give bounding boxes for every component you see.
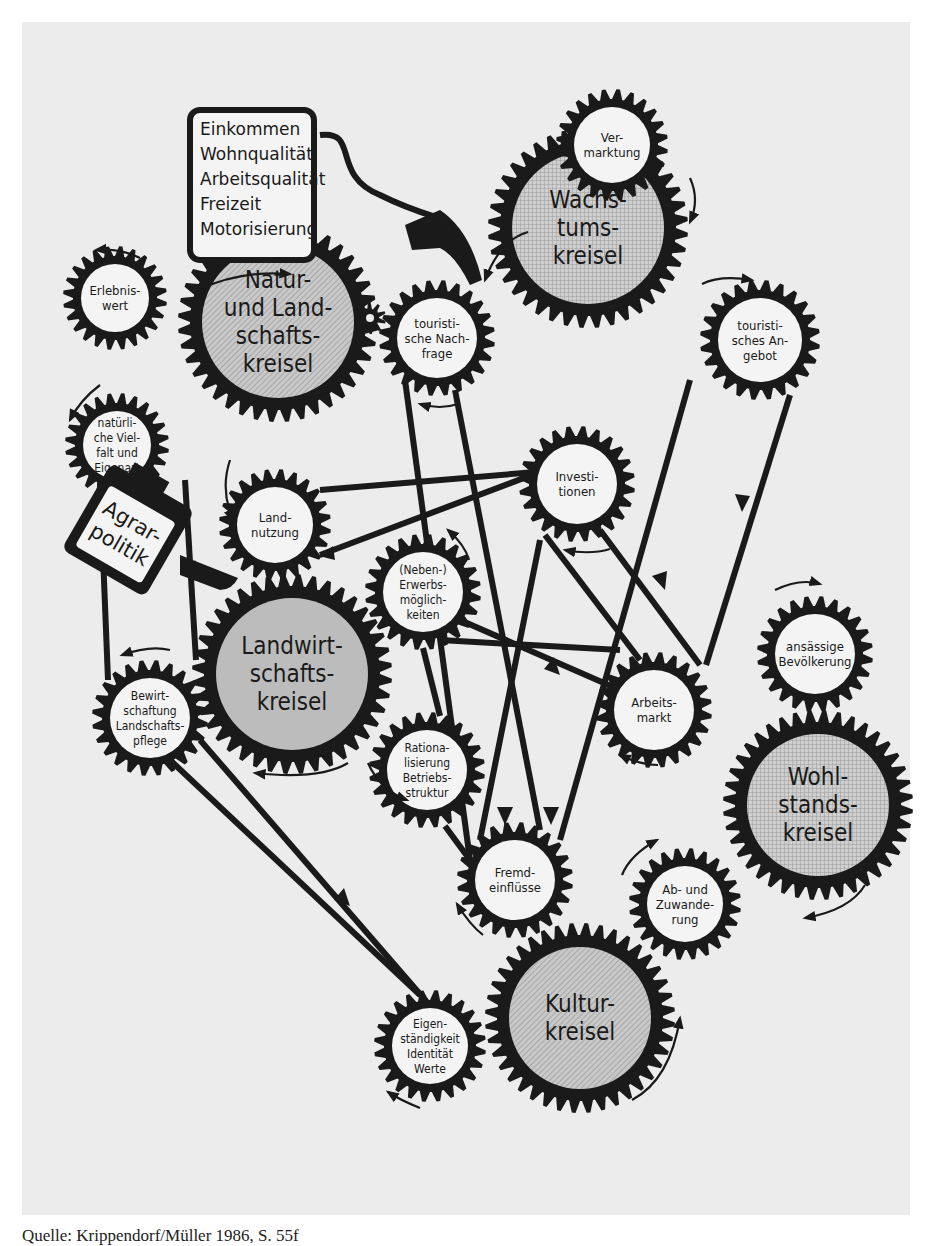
gear-label: tionen [558,484,595,499]
gear-label: Landschafts- [116,719,185,733]
info-box-line-4: Freizeit [200,194,261,214]
gear-fremdeinfluesse: Fremd-einflüsse [457,822,573,938]
gear-label: schafts- [236,322,321,350]
gear-label: Betriebs- [403,771,452,785]
gear-label: tums- [557,214,619,242]
gear-label: struktur [406,786,449,800]
gear-label: Eigen- [413,1017,447,1031]
gear-landnutzung: Land-nutzung [219,469,331,581]
gear-label: kreisel [545,1018,616,1046]
info-box-line-2: Wohnqualität [200,144,313,164]
gear-arbeitsmarkt: Arbeits-markt [596,652,712,768]
gear-label: einflüsse [489,880,541,895]
info-box: Einkommen Wohnqualität Arbeitsqualität F… [190,110,326,260]
gear-label: Kultur- [545,990,615,1018]
gear-landwirtschaft: Landwirt-schafts-kreisel [192,574,392,774]
gear-kultur: Kultur-kreisel [485,923,675,1113]
gear-angebot: touristi-sches An-gebot [700,280,820,400]
gear-label: und Land- [224,294,332,322]
gear-label: Zuwande- [656,897,714,912]
gear-label: marktung [584,145,641,160]
gear-label: Investi- [555,469,598,484]
gear-nebenerwerb: (Neben-)Erwerbs-möglich-keiten [365,534,481,650]
gear-label: markt [637,710,672,725]
gear-label: Ver- [601,130,623,145]
gear-label: schafts- [250,660,335,688]
gear-bevoelkerung: ansässigeBevölkerung [757,596,873,712]
gear-label: Landwirt- [241,632,342,660]
source-caption: Quelle: Krippendorf/Müller 1986, S. 55f [22,1226,299,1246]
gear-erlebniswert: Erlebnis-wert [63,246,167,350]
gear-label: Bewirt- [131,689,170,703]
gear-label: Land- [259,510,292,525]
gear-eigenstaendigkeit: Eigen-ständigkeitIdentitätWerte [374,990,486,1102]
gear-abzuwanderung: Ab- undZuwande-rung [629,848,741,960]
gear-label: Rationa- [404,741,449,755]
info-box-line-3: Arbeitsqualität [200,169,326,189]
gear-label: sches An- [732,333,789,348]
gear-label: ständigkeit [400,1032,460,1046]
gear-label: pflege [133,734,167,748]
gear-label: Fremd- [495,865,536,880]
gear-nachfrage: touristi-sche Nach-frage [379,280,495,396]
gear-label: kreisel [783,819,854,847]
gear-label: schaftung [123,704,176,718]
gear-label: stands- [778,791,857,819]
gear-label: touristi- [737,318,782,333]
gear-label: gebot [743,348,777,363]
gear-label: touristi- [414,316,459,331]
gear-wohlstand: Wohl-stands-kreisel [723,710,913,900]
gear-label: nutzung [251,525,299,540]
gear-label: kreisel [553,242,624,270]
gear-investitionen: Investi-tionen [519,426,635,542]
fuel-nozzle-icon [405,210,482,285]
fuel-hose [320,135,445,220]
gear-label: falt und [96,446,138,460]
gear-label: ansässige [786,639,844,654]
gear-label: Identität [407,1047,453,1061]
gear-label: Erlebnis- [89,283,140,298]
gear-label: wert [102,298,129,313]
gear-label: Natur- [245,266,312,294]
gear-label: keiten [406,608,439,622]
gear-label: natürli- [98,416,137,430]
gear-label: kreisel [243,350,314,378]
gear-label: lisierung [404,756,450,770]
info-box-line-1: Einkommen [200,119,300,139]
gear-label: sche Nach- [405,331,470,346]
gear-label: Arbeits- [631,695,677,710]
gear-label: frage [422,346,453,361]
gear-label: che Viel- [94,431,141,445]
gear-label: Wohl- [788,763,849,791]
gear-label: Erwerbs- [399,578,447,592]
info-box-line-5: Motorisierung [200,219,317,239]
gear-label: (Neben-) [399,563,446,577]
gear-label: kreisel [257,688,328,716]
gear-label: möglich- [400,593,447,607]
gear-label: rung [671,912,698,927]
gear-label: Bevölkerung [778,654,851,669]
gear-rationalisierung: Rationa-lisierungBetriebs-struktur [369,712,485,828]
gear-label: Werte [414,1062,446,1076]
gear-label: Ab- und [662,882,708,897]
